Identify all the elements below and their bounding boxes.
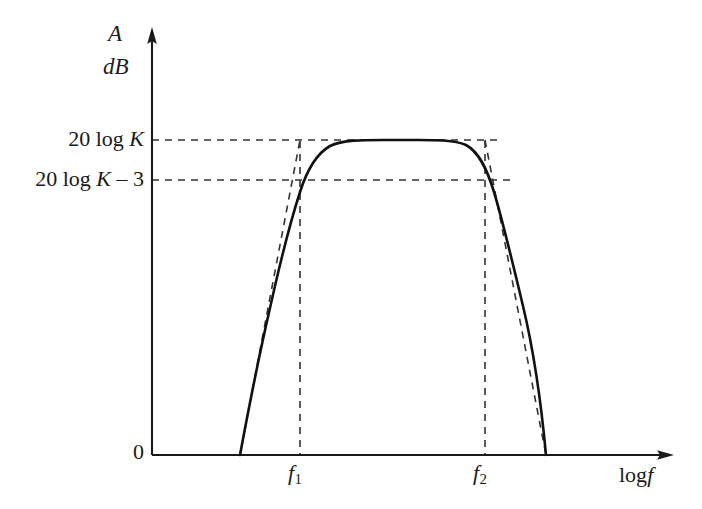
- x-tick-label-lower-cutoff: f1: [288, 462, 302, 487]
- response-curve-group: [240, 140, 546, 455]
- y-axis-quantity-label: A: [108, 22, 122, 45]
- asymptote-right-slope: [485, 140, 546, 455]
- y-tick-halfpower-variable: K: [96, 166, 111, 191]
- y-tick-passband-prefix: 20 log: [68, 126, 129, 151]
- y-tick-label-half-power: 20 log K – 3: [35, 168, 144, 190]
- x-axis-label: logf: [619, 464, 653, 486]
- y-tick-label-passband-gain: 20 log K: [68, 128, 144, 150]
- construction-lines: [152, 140, 546, 455]
- axes: [147, 27, 674, 460]
- x-axis-label-variable: f: [647, 462, 653, 487]
- y-tick-passband-variable: K: [129, 126, 144, 151]
- actual-response-curve: [240, 140, 546, 455]
- origin-label: 0: [133, 441, 144, 463]
- x-tick-label-upper-cutoff: f2: [473, 462, 487, 487]
- x-tick-f2-subscript: 2: [479, 471, 486, 487]
- y-tick-halfpower-prefix: 20 log: [35, 166, 96, 191]
- x-axis-label-prefix: log: [619, 462, 647, 487]
- y-axis-unit-label: dB: [103, 55, 129, 78]
- y-tick-halfpower-suffix: – 3: [111, 166, 144, 191]
- x-tick-f1-subscript: 1: [294, 471, 301, 487]
